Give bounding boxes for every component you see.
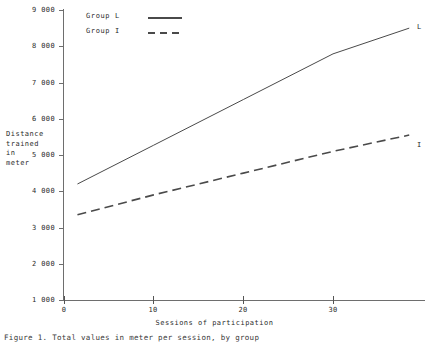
figure-caption: Figure 1. Total values in meter per sess…: [4, 333, 429, 342]
series-line-group-l: [77, 28, 409, 184]
series-line-group-i: [77, 135, 409, 215]
series-end-label-group-i: I: [417, 142, 422, 149]
series-end-label-group-l: L: [417, 24, 422, 31]
